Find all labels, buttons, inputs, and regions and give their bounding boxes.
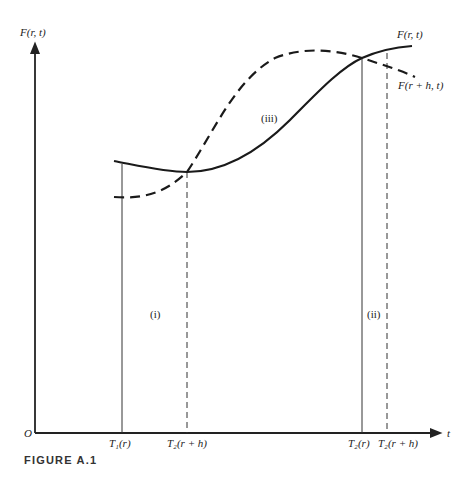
region-label-iii: (iii) [261, 112, 278, 125]
region-label-ii: (ii) [367, 308, 381, 321]
tick-label-t2-r: T₂(r) [348, 437, 370, 450]
region-label-i: (i) [150, 308, 161, 321]
y-axis-label: F(r, t) [19, 26, 46, 39]
origin-label: O [24, 427, 32, 439]
tick-label-t2-r-plus-h-left: T₂(r + h) [167, 437, 207, 450]
figure-a1: F(r, t) t O F(r, t) F(r + h, t) (iii) (i… [0, 0, 468, 480]
tick-label-t2-r-plus-h-right: T₂(r + h) [378, 437, 418, 450]
curve-label-f-r: F(r, t) [396, 28, 423, 41]
x-axis-label: t [447, 427, 451, 439]
tick-label-t1-r: T₁(r) [109, 437, 131, 450]
curve-label-f-r-plus-h: F(r + h, t) [397, 79, 444, 92]
figure-caption: FIGURE A.1 [24, 454, 97, 466]
